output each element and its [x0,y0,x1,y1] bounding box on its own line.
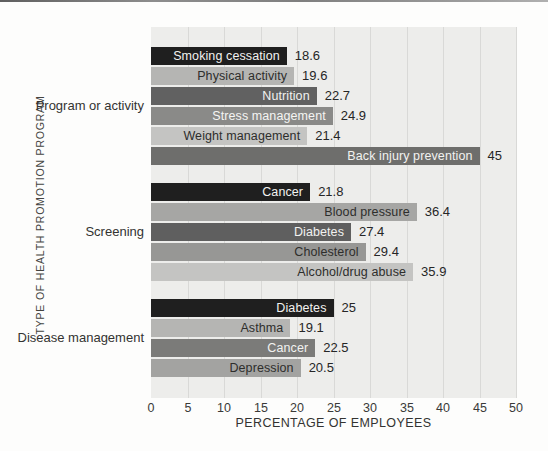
bar-value-label: 25 [342,299,356,317]
bar-diabetes: Diabetes [151,223,351,241]
bar-value-label: 29.4 [374,243,399,261]
bar-row: Physical activity19.6 [151,67,516,85]
bar-category-label: Weight management [183,129,307,143]
bar-category-label: Back injury prevention [347,149,479,163]
bar-back-injury-prevention: Back injury prevention [151,147,480,165]
bar-physical-activity: Physical activity [151,67,294,85]
bar-value-label: 22.5 [323,339,348,357]
bar-row: Alcohol/drug abuse35.9 [151,263,516,281]
bar-category-label: Asthma [240,321,290,335]
x-tick-label: 10 [207,401,241,415]
bar-value-label: 22.7 [325,87,350,105]
bar-value-label: 21.4 [315,127,340,145]
bar-category-label: Diabetes [294,225,351,239]
page-top-edge-rule [0,0,548,2]
bar-category-label: Blood pressure [324,205,416,219]
bar-category-label: Cancer [267,341,315,355]
bar-alcohol-drug-abuse: Alcohol/drug abuse [151,263,413,281]
x-tick-label: 30 [353,401,387,415]
bar-row: Cholesterol29.4 [151,243,516,261]
group-label-screening: Screening [0,223,144,241]
bar-row: Stress management24.9 [151,107,516,125]
bar-row: Blood pressure36.4 [151,203,516,221]
bar-diabetes: Diabetes [151,299,334,317]
bar-value-label: 21.8 [318,183,343,201]
plot-area: Smoking cessation18.6Physical activity19… [151,27,516,398]
x-tick-label: 0 [134,401,168,415]
bar-value-label: 24.9 [341,107,366,125]
bar-category-label: Nutrition [262,89,316,103]
bar-row: Asthma19.1 [151,319,516,337]
bar-cancer: Cancer [151,183,310,201]
bar-category-label: Cancer [262,185,310,199]
bar-nutrition: Nutrition [151,87,317,105]
bar-category-label: Cholesterol [294,245,365,259]
bar-category-label: Physical activity [197,69,294,83]
bar-value-label: 19.1 [298,319,323,337]
bar-row: Nutrition22.7 [151,87,516,105]
bar-category-label: Depression [229,361,300,375]
bar-category-label: Stress management [212,109,333,123]
x-tick-label: 40 [426,401,460,415]
bar-depression: Depression [151,359,301,377]
bar-category-label: Diabetes [276,301,333,315]
bar-value-label: 18.6 [295,47,320,65]
y-axis-title: TYPE OF HEALTH PROMOTION PROGRAM [34,96,46,335]
bar-row: Diabetes27.4 [151,223,516,241]
bar-category-label: Smoking cessation [173,49,287,63]
bar-value-label: 35.9 [421,263,446,281]
x-tick-label: 45 [463,401,497,415]
x-tick-label: 20 [280,401,314,415]
x-tick-label: 35 [390,401,424,415]
x-tick-label: 50 [499,401,533,415]
group-label-program-or-activity: Program or activity [0,97,144,115]
bar-asthma: Asthma [151,319,290,337]
bar-weight-management: Weight management [151,127,307,145]
bar-row: Diabetes25 [151,299,516,317]
bar-category-label: Alcohol/drug abuse [297,265,413,279]
x-axis-title: PERCENTAGE OF EMPLOYEES [151,416,516,430]
gridline [516,27,517,398]
figure-page: TYPE OF HEALTH PROMOTION PROGRAM Smoking… [0,0,548,451]
bar-smoking-cessation: Smoking cessation [151,47,287,65]
bar-value-label: 20.5 [309,359,334,377]
bar-row: Smoking cessation18.6 [151,47,516,65]
bar-value-label: 27.4 [359,223,384,241]
bar-blood-pressure: Blood pressure [151,203,417,221]
bar-value-label: 45 [488,147,502,165]
x-tick-label: 5 [171,401,205,415]
bar-row: Cancer22.5 [151,339,516,357]
bar-cholesterol: Cholesterol [151,243,366,261]
x-tick-label: 25 [317,401,351,415]
group-label-disease-management: Disease management [0,329,144,347]
bar-stress-management: Stress management [151,107,333,125]
bar-value-label: 36.4 [425,203,450,221]
x-tick-label: 15 [244,401,278,415]
bar-value-label: 19.6 [302,67,327,85]
bar-row: Weight management21.4 [151,127,516,145]
bar-cancer: Cancer [151,339,315,357]
bar-row: Cancer21.8 [151,183,516,201]
bar-row: Depression20.5 [151,359,516,377]
bar-row: Back injury prevention45 [151,147,516,165]
